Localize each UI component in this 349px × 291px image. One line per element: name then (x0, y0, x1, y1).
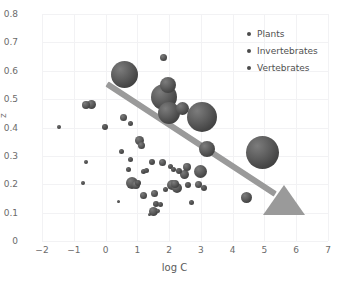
legend-marker-dot-icon (247, 66, 251, 70)
x-tick-label: 7 (313, 246, 343, 255)
data-point-bubble (148, 213, 151, 216)
data-point-bubble (176, 102, 189, 115)
trend-arrow-head (263, 185, 305, 215)
legend-item-label: Plants (257, 29, 284, 39)
legend-item: Invertebrates (247, 42, 318, 59)
data-point-bubble (246, 136, 279, 169)
x-tick-label: 3 (186, 246, 216, 255)
data-point-bubble (158, 202, 163, 207)
bubble-chart-figure: 00.10.20.30.40.50.60.70.8 −2−101234567 z… (0, 0, 349, 291)
data-point-bubble (84, 160, 88, 164)
data-point-bubble (159, 159, 166, 166)
data-point-bubble (128, 157, 133, 162)
data-point-bubble (185, 182, 191, 188)
gridline-horizontal (42, 241, 328, 242)
data-point-bubble (81, 181, 85, 185)
data-point-bubble (201, 185, 207, 191)
data-point-bubble (111, 61, 138, 88)
data-point-bubble (138, 142, 145, 149)
data-point-bubble (241, 192, 252, 203)
x-tick-label: 6 (281, 246, 311, 255)
x-tick-label: −1 (59, 246, 89, 255)
data-point-bubble (128, 121, 133, 126)
data-point-bubble (189, 200, 194, 205)
data-point-bubble (135, 180, 141, 186)
x-tick-label: 0 (91, 246, 121, 255)
x-tick-label: −2 (27, 246, 57, 255)
data-point-bubble (119, 149, 124, 154)
data-point-bubble (163, 187, 168, 192)
y-tick-label: 0.3 (0, 152, 18, 161)
gridline-horizontal (42, 99, 328, 100)
data-point-bubble (160, 77, 176, 93)
data-point-bubble (117, 200, 120, 203)
y-tick-label: 0.7 (0, 38, 18, 47)
data-point-bubble (140, 192, 147, 199)
gridline-horizontal (42, 128, 328, 129)
y-tick-label: 0.5 (0, 95, 18, 104)
data-point-bubble (144, 168, 149, 173)
y-tick-label: 0 (0, 237, 18, 246)
data-point-bubble (160, 54, 167, 61)
legend-item: Plants (247, 25, 318, 42)
data-point-bubble (126, 167, 131, 172)
legend-item-label: Invertebrates (257, 46, 318, 56)
data-point-bubble (194, 165, 207, 178)
legend-item-label: Vertebrates (257, 63, 309, 73)
y-tick-label: 0.6 (0, 67, 18, 76)
data-point-bubble (57, 125, 61, 129)
x-tick-label: 2 (154, 246, 184, 255)
legend-marker-dot-icon (247, 49, 251, 53)
gridline-horizontal (42, 14, 328, 15)
y-axis-title: z (0, 113, 8, 118)
x-axis-title: log C (0, 262, 349, 273)
x-tick-label: 5 (249, 246, 279, 255)
y-tick-label: 0.1 (0, 209, 18, 218)
data-point-bubble (149, 159, 155, 165)
data-point-bubble (102, 124, 108, 130)
legend: PlantsInvertebratesVertebrates (247, 25, 318, 76)
legend-item: Vertebrates (247, 59, 318, 76)
data-point-bubble (183, 163, 191, 171)
x-tick-label: 4 (218, 246, 248, 255)
x-tick-label: 1 (122, 246, 152, 255)
y-tick-label: 0.2 (0, 180, 18, 189)
data-point-bubble (151, 190, 158, 197)
legend-marker-dot-icon (247, 32, 251, 36)
gridline-vertical (328, 14, 329, 241)
gridline-horizontal (42, 156, 328, 157)
y-tick-label: 0.4 (0, 124, 18, 133)
y-tick-label: 0.8 (0, 10, 18, 19)
data-point-bubble (120, 114, 127, 121)
